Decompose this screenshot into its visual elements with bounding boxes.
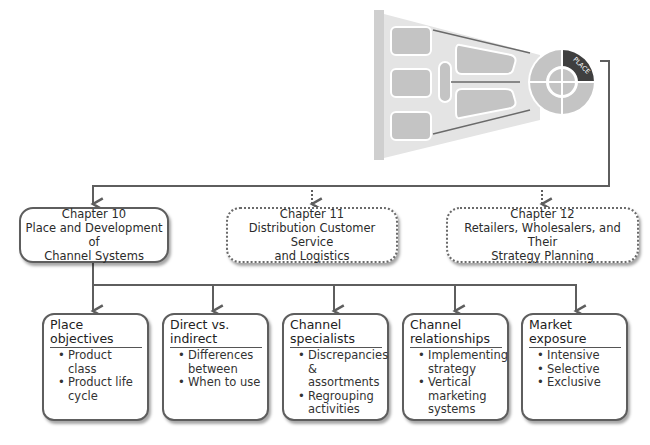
chapter-number: Chapter 12 [448, 207, 637, 221]
topic-item: When to use [178, 376, 262, 390]
place-funnel-graphic: PLACE [374, 10, 596, 160]
chapter-title-line2: Channel Systems [21, 249, 167, 263]
topic-item: Implementing strategy [418, 349, 502, 376]
topic-market-exposure: Market exposure Intensive Selective Excl… [521, 313, 628, 421]
topic-item: Intensive [537, 349, 621, 363]
topic-item: Regrouping activities [298, 390, 382, 417]
topic-heading: Place objectives [50, 318, 142, 348]
topic-heading: Market exposure [529, 318, 621, 348]
chapter-title-line2: Strategy Planning [448, 249, 637, 263]
topic-item: Discrepancies & assortments [298, 349, 382, 390]
chapter-12-box: Chapter 12 Retailers, Wholesalers, and T… [446, 207, 639, 263]
topic-item: Product life cycle [58, 376, 142, 403]
topic-heading: Channel relationships [410, 318, 502, 348]
topic-item: Product class [58, 349, 142, 376]
topic-list: Intensive Selective Exclusive [529, 349, 621, 390]
topic-list: Differences between When to use [170, 349, 262, 390]
topic-item: Vertical marketing systems [418, 376, 502, 417]
topic-item: Differences between [178, 349, 262, 376]
topic-heading: Direct vs. indirect [170, 318, 262, 348]
chapter-number: Chapter 11 [228, 207, 396, 221]
topic-channel-relationships: Channel relationships Implementing strat… [402, 313, 509, 421]
chapter-title-line2: and Logistics [228, 249, 396, 263]
chapter-number: Chapter 10 [21, 207, 167, 221]
topic-heading: Channel specialists [290, 318, 382, 348]
chapter-10-box: Chapter 10 Place and Development of Chan… [19, 207, 169, 263]
topic-item: Exclusive [537, 376, 621, 390]
chapter-11-box: Chapter 11 Distribution Customer Service… [226, 207, 398, 263]
topic-channel-specialists: Channel specialists Discrepancies & asso… [282, 313, 389, 421]
topic-list: Implementing strategy Vertical marketing… [410, 349, 502, 417]
chapter-title-line1: Retailers, Wholesalers, and Their [448, 221, 637, 249]
topic-place-objectives: Place objectives Product class Product l… [42, 313, 149, 421]
topic-direct-vs-indirect: Direct vs. indirect Differences between … [162, 313, 269, 421]
chapter-title-line1: Distribution Customer Service [228, 221, 396, 249]
topic-list: Product class Product life cycle [50, 349, 142, 403]
topic-list: Discrepancies & assortments Regrouping a… [290, 349, 382, 417]
topic-item: Selective [537, 363, 621, 377]
chapter-title-line1: Place and Development of [21, 221, 167, 249]
